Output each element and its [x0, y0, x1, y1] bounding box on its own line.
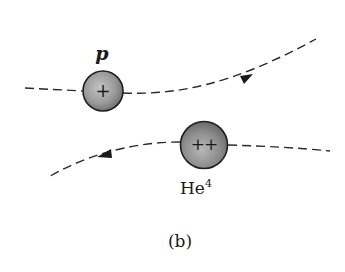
proton-trajectory — [25, 39, 316, 93]
helium-direction-arrow-icon — [97, 149, 112, 158]
proton-particle: + — [83, 71, 123, 111]
helium-label: He4 — [180, 177, 212, 198]
helium-charge-symbol: ++ — [191, 134, 218, 154]
figure-caption: (b) — [168, 231, 192, 251]
helium-particle: ++ — [181, 122, 228, 169]
proton-direction-arrow-icon — [240, 74, 253, 84]
proton-label: p — [95, 42, 109, 64]
helium-label-base: He — [180, 178, 205, 198]
proton-charge-symbol: + — [95, 80, 110, 101]
helium-label-superscript: 4 — [205, 177, 212, 190]
scattering-diagram: + p ++ He4 (b) — [0, 0, 345, 272]
